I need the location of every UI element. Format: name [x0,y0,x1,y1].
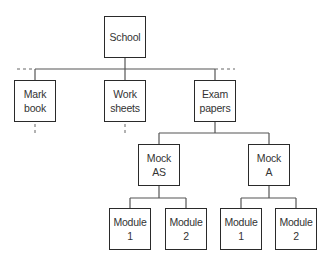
node-mock-as-module-2: Module 2 [165,208,207,250]
node-exam-papers: Exam papers [194,80,236,122]
node-worksheets: Work sheets [104,80,146,122]
node-mock-as: Mock AS [138,144,180,186]
node-school: School [104,16,146,58]
node-mock-a-module-2: Module 2 [275,208,317,250]
node-mock-a-module-1: Module 1 [220,208,262,250]
node-mock-a: Mock A [248,144,290,186]
node-mock-as-module-1: Module 1 [109,208,151,250]
node-mark-book: Mark book [14,80,56,122]
folder-hierarchy-diagram: School Mark book Work sheets Exam papers… [0,0,329,263]
